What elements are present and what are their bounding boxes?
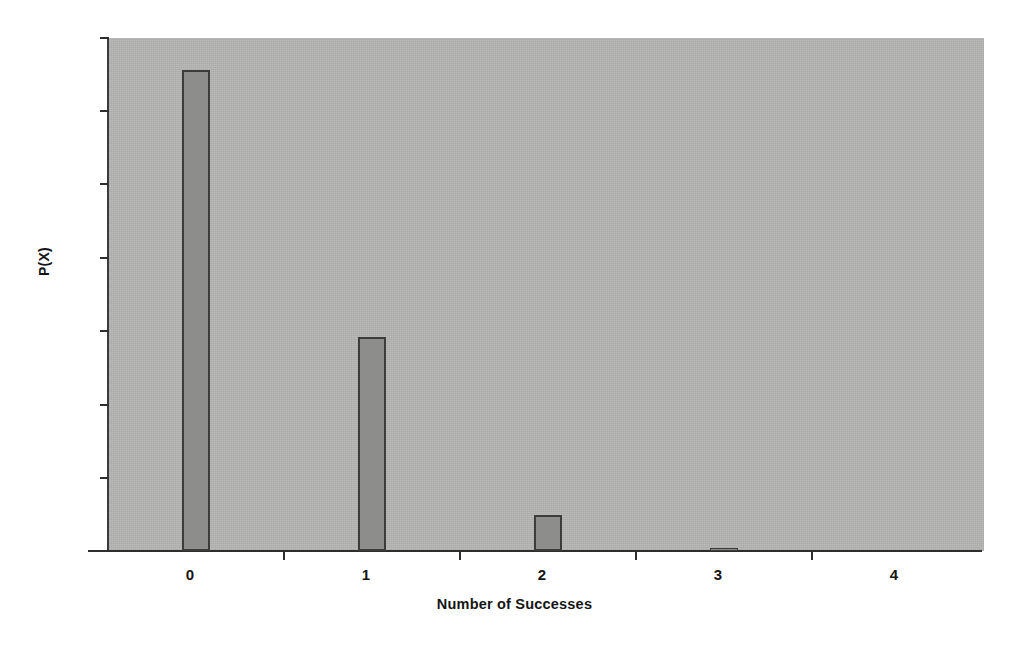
x-axis-tick-label: 4 xyxy=(864,566,924,583)
bar-category-3 xyxy=(710,548,738,551)
y-axis-title: P(X) xyxy=(36,247,52,276)
y-axis-tick xyxy=(100,330,109,332)
y-axis-tick xyxy=(100,37,109,39)
y-axis-line xyxy=(107,38,109,552)
x-axis-tick xyxy=(459,551,461,560)
bar-category-1 xyxy=(358,337,386,551)
paper-texture-overlay xyxy=(108,38,984,551)
bar-category-2 xyxy=(534,515,562,551)
y-axis-tick xyxy=(100,550,109,552)
x-axis-tick-label: 0 xyxy=(160,566,220,583)
x-axis-tick-label: 1 xyxy=(336,566,396,583)
x-axis-tick xyxy=(283,551,285,560)
x-axis-title: Number of Successes xyxy=(0,596,1029,612)
chart-figure: 0.7 0.6 0.5 0.4 0.3 0.2 0.1 0 0 1 2 3 4 … xyxy=(0,0,1029,645)
x-axis-tick-label: 2 xyxy=(512,566,572,583)
x-axis-tick xyxy=(811,551,813,560)
plot-area xyxy=(108,38,984,551)
y-axis-tick xyxy=(100,110,109,112)
y-axis-tick xyxy=(100,404,109,406)
x-axis-tick-label: 3 xyxy=(688,566,748,583)
y-axis-tick xyxy=(100,477,109,479)
bar-category-0 xyxy=(182,70,210,551)
x-axis-tick xyxy=(635,551,637,560)
y-axis-tick xyxy=(100,257,109,259)
y-axis-tick xyxy=(100,183,109,185)
